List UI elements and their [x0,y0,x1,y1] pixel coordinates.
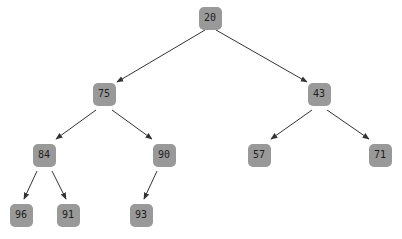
tree-node-84: 84 [33,144,56,167]
tree-node-57: 57 [248,144,271,167]
node-label: 71 [374,150,386,160]
edge-75-to-84 [56,110,96,139]
edge-84-to-91 [52,171,66,199]
tree-node-71: 71 [369,144,392,167]
node-label: 93 [135,210,147,220]
tree-node-75: 75 [93,83,116,106]
tree-node-43: 43 [308,83,331,106]
edge-43-to-57 [271,110,312,139]
tree-node-91: 91 [57,204,80,227]
node-label: 75 [98,89,110,99]
node-label: 43 [313,89,325,99]
node-label: 91 [62,210,74,220]
edge-20-to-43 [216,30,307,82]
tree-node-90: 90 [153,144,176,167]
edge-75-to-90 [112,110,152,139]
edge-84-to-96 [24,171,37,199]
node-label: 20 [204,13,216,23]
edge-20-to-75 [117,30,205,82]
tree-node-93: 93 [130,204,153,227]
edge-90-to-93 [144,171,157,199]
tree-node-20: 20 [199,7,222,30]
node-label: 90 [158,150,170,160]
node-label: 84 [38,150,50,160]
node-label: 96 [15,210,27,220]
edge-43-to-71 [327,110,369,139]
tree-node-96: 96 [10,204,33,227]
node-label: 57 [253,150,265,160]
